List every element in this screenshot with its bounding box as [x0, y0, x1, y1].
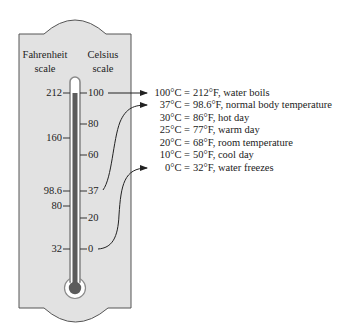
reference-row-freezing: 0°C =32°F, water freezes [140, 162, 274, 174]
fahrenheit-header-line2: scale [15, 62, 75, 76]
fahrenheit-description: 68°F, room temperature [193, 137, 293, 149]
fahrenheit-description: 86°F, hot day [193, 112, 249, 124]
f-tick-label: 80 [22, 200, 62, 212]
fahrenheit-description: 98.6°F, normal body temperature [193, 99, 332, 111]
celsius-value: 37°C = [140, 99, 190, 111]
celsius-value: 0°C = [140, 162, 190, 174]
c-tick-label: 0 [88, 243, 93, 255]
reference-row-room: 20°C =68°F, room temperature [140, 137, 293, 149]
celsius-header: Celsius scale [80, 48, 126, 75]
c-tick-label: 80 [88, 118, 99, 130]
f-tick-label: 32 [22, 243, 62, 255]
c-tick-label: 60 [88, 149, 99, 161]
celsius-value: 10°C = [140, 149, 190, 161]
fahrenheit-description: 32°F, water freezes [193, 162, 274, 174]
celsius-value: 20°C = [140, 137, 190, 149]
celsius-value: 25°C = [140, 124, 190, 136]
fahrenheit-description: 77°F, warm day [193, 124, 260, 136]
fahrenheit-header-line1: Fahrenheit [15, 48, 75, 62]
mercury-column [73, 93, 78, 288]
celsius-header-line1: Celsius [80, 48, 126, 62]
reference-row-hot: 30°C =86°F, hot day [140, 112, 249, 124]
c-tick-label: 100 [88, 87, 104, 99]
reference-row-body: 37°C =98.6°F, normal body temperature [140, 99, 332, 111]
f-tick-label: 98.6 [22, 185, 62, 197]
f-tick-label: 160 [22, 132, 62, 144]
fahrenheit-description: 50°F, cool day [193, 149, 254, 161]
reference-row-warm: 25°C =77°F, warm day [140, 124, 260, 136]
fahrenheit-header: Fahrenheit scale [15, 48, 75, 75]
fahrenheit-description: 212°F, water boils [193, 87, 270, 99]
celsius-value: 30°C = [140, 112, 190, 124]
bulb-mercury [69, 282, 81, 294]
reference-row-cool: 10°C =50°F, cool day [140, 149, 254, 161]
celsius-value: 100°C = [140, 87, 190, 99]
celsius-header-line2: scale [80, 62, 126, 76]
c-tick-label: 37 [88, 185, 99, 197]
c-tick-label: 20 [88, 212, 99, 224]
f-tick-label: 212 [22, 87, 62, 99]
reference-row-boiling: 100°C =212°F, water boils [140, 87, 270, 99]
